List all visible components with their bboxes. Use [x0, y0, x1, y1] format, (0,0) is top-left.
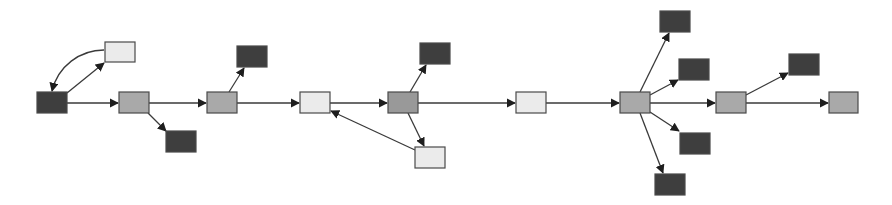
node-n15-dark — [680, 133, 710, 154]
node-n10-light — [415, 147, 445, 168]
node-n6-dark — [237, 46, 267, 67]
node-n17-mid — [716, 92, 746, 113]
edge-n1-to-n2 — [67, 63, 104, 93]
edge-n10-to-n7 — [331, 111, 415, 150]
edge-n8-to-n9 — [410, 65, 426, 92]
edge-n17-to-n18 — [746, 73, 788, 95]
edge-n3-to-n4 — [148, 113, 166, 131]
node-n18-dark — [789, 54, 819, 75]
node-n4-dark — [166, 131, 196, 152]
edge-n12-to-n16 — [640, 113, 663, 173]
edge-n5-to-n6 — [229, 68, 244, 92]
node-n1-dark — [37, 92, 67, 113]
node-n7-light — [300, 92, 330, 113]
node-n19-mid — [829, 92, 858, 113]
node-n8-mid_dark — [388, 92, 418, 113]
node-n14-dark — [679, 59, 709, 80]
edge-n12-to-n14 — [650, 80, 678, 95]
node-n16-dark — [655, 174, 685, 195]
node-n11-light — [516, 92, 546, 113]
node-n9-dark — [420, 43, 450, 64]
node-n3-mid — [119, 92, 149, 113]
edge-n12-to-n15 — [650, 112, 679, 131]
node-n5-mid — [207, 92, 237, 113]
edge-n8-to-n10 — [408, 113, 424, 146]
node-n13-dark — [660, 11, 690, 32]
node-n2-light — [105, 42, 135, 62]
flow-diagram — [0, 0, 892, 205]
node-n12-mid — [620, 92, 650, 113]
edge-n12-to-n13 — [640, 33, 669, 92]
